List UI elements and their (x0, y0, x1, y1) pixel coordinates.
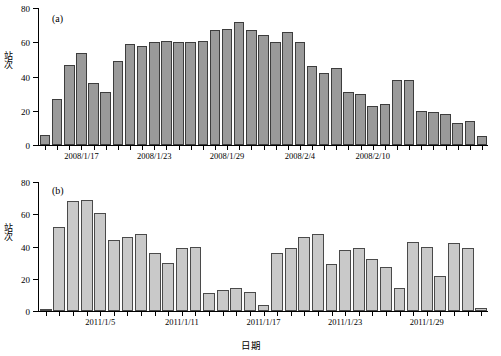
y-tick-label-b-40: 40 (21, 243, 30, 252)
x-tick-a-36 (482, 146, 483, 150)
bar (404, 80, 415, 145)
bar (198, 41, 209, 145)
x-tick-label-b-1: 2011/1/11 (165, 318, 199, 327)
bar (190, 247, 202, 312)
x-tick-b-6 (127, 312, 128, 316)
x-tick-b-7 (141, 312, 142, 316)
x-tick-b-2 (73, 312, 74, 316)
bar (258, 35, 269, 145)
bar (176, 248, 188, 311)
bar (149, 253, 161, 311)
bar (162, 263, 174, 311)
bar (326, 264, 338, 311)
y-tick-a-40 (33, 77, 38, 78)
bar (477, 136, 488, 145)
x-tick-b-3 (87, 312, 88, 316)
x-tick-a-21 (300, 146, 301, 150)
x-tick-a-23 (324, 146, 325, 150)
y-axis-label-a: 站 次 (2, 52, 14, 71)
x-tick-a-12 (191, 146, 192, 150)
bar (270, 42, 281, 145)
x-tick-label-b-0: 2011/1/5 (85, 318, 115, 327)
y-tick-a-60 (33, 42, 38, 43)
y-axis-label-b: 站 次 (2, 224, 14, 243)
bar (462, 248, 474, 311)
x-tick-b-17 (277, 312, 278, 316)
x-tick-a-5 (106, 146, 107, 150)
x-tick-b-19 (304, 312, 305, 316)
bar (76, 53, 87, 145)
x-tick-label-b-3: 2011/1/23 (328, 318, 362, 327)
bar (319, 73, 330, 145)
x-tick-a-8 (142, 146, 143, 150)
bar (331, 68, 342, 145)
bar (428, 112, 439, 145)
bar (355, 94, 366, 145)
x-tick-a-18 (264, 146, 265, 150)
plot-area-a: 0204060802008/1/172008/1/232008/1/292008… (38, 8, 488, 146)
bar (135, 234, 147, 311)
x-tick-a-0 (45, 146, 46, 150)
x-tick-a-33 (446, 146, 447, 150)
bar (407, 242, 419, 311)
x-tick-b-8 (155, 312, 156, 316)
plot-area-b: 0204060802011/1/52011/1/112011/1/172011/… (38, 182, 488, 312)
x-tick-a-4 (94, 146, 95, 150)
x-tick-b-29 (440, 312, 441, 316)
x-tick-a-29 (397, 146, 398, 150)
x-tick-b-31 (468, 312, 469, 316)
x-tick-b-13 (223, 312, 224, 316)
y-tick-b-0 (33, 311, 38, 312)
bar (298, 237, 310, 311)
x-tick-a-16 (239, 146, 240, 150)
x-tick-a-35 (470, 146, 471, 150)
y-tick-label-b-60: 60 (21, 211, 30, 220)
bar-series-a (39, 8, 488, 145)
x-tick-b-10 (182, 312, 183, 316)
bar (366, 259, 378, 311)
bar (380, 267, 392, 311)
x-tick-a-10 (166, 146, 167, 150)
bar (421, 247, 433, 312)
bar (353, 248, 365, 311)
y-tick-b-80 (33, 182, 38, 183)
bar (465, 121, 476, 145)
bar (113, 61, 124, 145)
x-tick-b-16 (264, 312, 265, 316)
bar (52, 99, 63, 145)
y-axis-label-a-char2: 次 (2, 61, 14, 70)
panel-b: 站 次 (b) 0204060802011/1/52011/1/112011/1… (0, 170, 501, 356)
x-tick-a-24 (336, 146, 337, 150)
x-tick-a-26 (361, 146, 362, 150)
bar (122, 237, 134, 311)
bar (258, 305, 270, 311)
bar (440, 114, 451, 145)
bar (448, 243, 460, 311)
bar (100, 92, 111, 145)
bar (94, 213, 106, 311)
x-tick-b-28 (427, 312, 428, 316)
x-tick-a-22 (312, 146, 313, 150)
bar (40, 135, 51, 145)
x-tick-b-4 (100, 312, 101, 316)
bar (161, 41, 172, 145)
bar (380, 104, 391, 145)
bar (367, 106, 378, 145)
bar-chart-figure: 站 次 (a) 0204060802008/1/172008/1/232008/… (0, 0, 501, 356)
bar (244, 292, 256, 311)
bar (307, 66, 318, 145)
x-tick-a-1 (57, 146, 58, 150)
bar (434, 276, 446, 311)
bar (203, 293, 215, 311)
bar (394, 288, 406, 311)
bar (40, 309, 52, 311)
x-tick-a-11 (179, 146, 180, 150)
bar (173, 42, 184, 145)
y-tick-label-a-40: 40 (21, 73, 30, 82)
bar (452, 123, 463, 145)
bar (125, 44, 136, 145)
x-tick-b-27 (413, 312, 414, 316)
x-tick-a-32 (433, 146, 434, 150)
bar (392, 80, 403, 145)
x-tick-b-20 (318, 312, 319, 316)
